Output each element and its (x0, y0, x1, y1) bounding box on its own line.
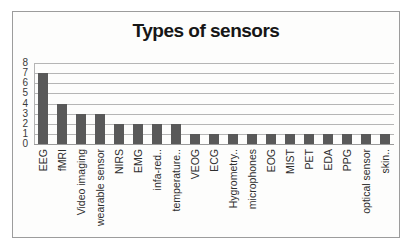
x-tick-label: infa-red.. (150, 149, 164, 233)
x-tick-slot: microphones (242, 147, 261, 234)
x-tick-label: NIRS (112, 149, 126, 233)
x-tick-label: optical sensor (359, 149, 373, 233)
x-tick-label: temperature.. (169, 149, 183, 233)
bar-temperature.. (171, 124, 181, 144)
y-tick-label: 8 (22, 58, 28, 68)
bar-wearable sensor (95, 114, 105, 144)
x-tick-slot: PET (299, 147, 318, 234)
x-tick-label: wearable sensor (93, 149, 107, 233)
bar-EMG (133, 124, 143, 144)
bar-Hygrometry.. (228, 134, 238, 144)
x-tick-slot: infa-red.. (148, 147, 167, 234)
y-tick-label: 4 (22, 99, 28, 109)
x-axis-line (34, 144, 394, 145)
bar-EOG (266, 134, 276, 144)
screenshot-page: Types of sensors 012345678 EEGfMRIVideo … (0, 0, 414, 251)
chart-frame: Types of sensors 012345678 EEGfMRIVideo … (12, 11, 400, 238)
x-tick-label: EMG (131, 149, 145, 233)
x-tick-slot: NIRS (110, 147, 129, 234)
bar-fMRI (57, 104, 67, 145)
x-tick-label: PET (302, 149, 316, 233)
bar-PPG (342, 134, 352, 144)
x-tick-label: VEOG (188, 149, 202, 233)
x-tick-slot: Video imaging (72, 147, 91, 234)
x-tick-label: Hygrometry.. (226, 149, 240, 233)
y-tick-label: 1 (22, 129, 28, 139)
x-tick-label: skin.. (378, 149, 392, 233)
bar-EDA (323, 134, 333, 144)
x-tick-slot: wearable sensor (91, 147, 110, 234)
gridline (34, 114, 394, 115)
x-tick-label: PPG (340, 149, 354, 233)
x-tick-label: ECG (207, 149, 221, 233)
bar-Video imaging (76, 114, 86, 144)
x-tick-slot: EOG (261, 147, 280, 234)
bar-VEOG (190, 134, 200, 144)
gridline (34, 124, 394, 125)
bar-EEG (38, 73, 48, 144)
bar-NIRS (114, 124, 124, 144)
plot-area (34, 63, 394, 144)
x-tick-slot: fMRI (53, 147, 72, 234)
x-tick-slot: temperature.. (167, 147, 186, 234)
x-tick-label: fMRI (55, 149, 69, 233)
y-tick-label: 2 (22, 119, 28, 129)
gridline (34, 104, 394, 105)
x-tick-label: MIST (283, 149, 297, 233)
gridline (34, 73, 394, 74)
bar-optical sensor (361, 134, 371, 144)
x-tick-slot: EEG (34, 147, 53, 234)
bar-infa-red.. (152, 124, 162, 144)
x-axis-tick-labels: EEGfMRIVideo imagingwearable sensorNIRSE… (34, 147, 394, 234)
bar-ECG (209, 134, 219, 144)
x-tick-slot: PPG (337, 147, 356, 234)
x-tick-label: EOG (264, 149, 278, 233)
gridline (34, 63, 394, 64)
x-tick-slot: EMG (129, 147, 148, 234)
x-tick-label: Video imaging (74, 149, 88, 233)
gridline (34, 93, 394, 94)
y-tick-label: 7 (22, 68, 28, 78)
y-tick-label: 6 (22, 78, 28, 88)
bar-microphones (247, 134, 257, 144)
x-tick-slot: optical sensor (356, 147, 375, 234)
x-tick-label: EDA (321, 149, 335, 233)
bar-MIST (285, 134, 295, 144)
x-tick-slot: skin.. (375, 147, 394, 234)
chart-title: Types of sensors (13, 20, 399, 42)
x-tick-label: EEG (36, 149, 50, 233)
gridline (34, 83, 394, 84)
y-tick-label: 0 (22, 139, 28, 149)
x-tick-label: microphones (245, 149, 259, 233)
y-tick-label: 3 (22, 109, 28, 119)
x-tick-slot: VEOG (186, 147, 205, 234)
x-tick-slot: ECG (205, 147, 224, 234)
x-tick-slot: Hygrometry.. (223, 147, 242, 234)
y-tick-label: 5 (22, 88, 28, 98)
x-tick-slot: MIST (280, 147, 299, 234)
bar-skin.. (380, 134, 390, 144)
y-axis-tick-labels: 012345678 (13, 63, 31, 144)
x-tick-slot: EDA (318, 147, 337, 234)
bar-PET (304, 134, 314, 144)
